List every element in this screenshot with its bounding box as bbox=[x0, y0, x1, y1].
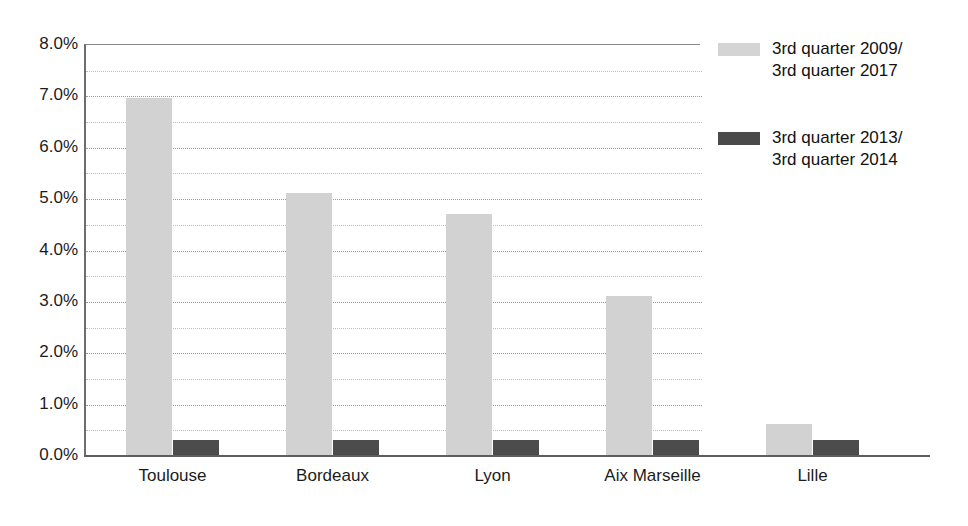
legend-item-label: 3rd quarter 2009/ 3rd quarter 2017 bbox=[772, 38, 902, 83]
bar bbox=[173, 440, 219, 455]
bar-group bbox=[606, 44, 699, 455]
bar-chart: 0.0%1.0%2.0%3.0%4.0%5.0%6.0%7.0%8.0% 3rd… bbox=[0, 0, 968, 526]
bar-group bbox=[286, 44, 379, 455]
bar-group bbox=[126, 44, 219, 455]
x-axis-category-label: Toulouse bbox=[138, 466, 206, 486]
bar bbox=[286, 193, 332, 455]
legend-swatch-icon bbox=[718, 132, 760, 145]
bar bbox=[333, 440, 379, 455]
legend-item-label: 3rd quarter 2013/ 3rd quarter 2014 bbox=[772, 127, 902, 172]
x-axis-line bbox=[84, 455, 930, 457]
x-axis-category-label: Aix Marseille bbox=[604, 466, 700, 486]
bar bbox=[126, 98, 172, 455]
legend-item: 3rd quarter 2009/ 3rd quarter 2017 bbox=[718, 38, 958, 83]
chart-legend: 3rd quarter 2009/ 3rd quarter 2017 3rd q… bbox=[718, 38, 958, 216]
bar bbox=[606, 296, 652, 455]
legend-item: 3rd quarter 2013/ 3rd quarter 2014 bbox=[718, 127, 958, 172]
bar bbox=[653, 440, 699, 455]
bar bbox=[813, 440, 859, 455]
x-axis-category-label: Bordeaux bbox=[296, 466, 369, 486]
bar bbox=[446, 214, 492, 455]
bar-group bbox=[446, 44, 539, 455]
bar bbox=[766, 424, 812, 455]
bar bbox=[493, 440, 539, 455]
legend-swatch-icon bbox=[718, 43, 760, 56]
x-axis-category-label: Lille bbox=[797, 466, 827, 486]
x-axis-category-label: Lyon bbox=[474, 466, 510, 486]
